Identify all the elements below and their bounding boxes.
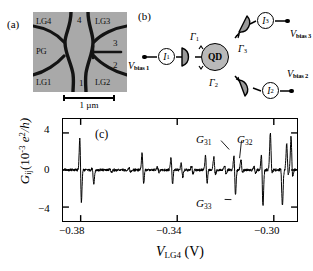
y-axis-unit-exp2: 2 [17, 132, 27, 136]
annotation-g32-symbol: G [237, 133, 245, 145]
terminal-2 [289, 89, 294, 94]
x-axis-label: VLG4 (V) [62, 244, 298, 260]
gamma-1-index: 1 [196, 35, 199, 42]
sem-region-3: 3 [113, 38, 118, 48]
x-axis-symbol: V [156, 244, 165, 259]
vbias-2-sub: bias 2 [293, 72, 308, 79]
y-axis-sub: ij [23, 170, 33, 175]
y-axis-unit-exp: -3 [17, 146, 27, 153]
x-tick-label-3: −0.30 [254, 224, 279, 236]
sem-label-lg4: LG4 [36, 16, 51, 26]
sem-label-pg: PG [36, 46, 46, 56]
vbias-1-label: Vbias 1 [128, 60, 149, 71]
annotation-g31-sub: 31 [204, 138, 212, 147]
gamma-2-label: Γ2 [209, 77, 218, 88]
scale-bar-label: 1 µm [63, 100, 115, 110]
y-axis-symbol: G [17, 175, 32, 184]
quantum-dot: QD [201, 43, 229, 71]
annotation-g32: G32 [237, 133, 252, 147]
sem-region-1: 1 [79, 78, 84, 88]
vbias-1-sub: bias 1 [134, 64, 149, 71]
gamma-1-label: Γ1 [190, 31, 199, 42]
annotation-g33-symbol: G [196, 197, 204, 209]
y-axis-label: Gij(10-3 e2/h) [17, 96, 33, 206]
terminal-1 [142, 55, 147, 60]
terminal-3 [285, 19, 290, 24]
sem-label-lg3: LG3 [95, 16, 110, 26]
sem-region-2: 2 [113, 60, 118, 70]
ammeter-1: I1 [158, 48, 175, 65]
ammeter-3: I3 [257, 12, 274, 29]
panel-a-label: (a) [7, 18, 19, 30]
x-tick-label-2: −0.34 [156, 224, 181, 236]
x-tick-label-1: −0.38 [59, 224, 84, 236]
y-axis-unit-post: e [17, 137, 32, 146]
ammeter-2-index: 2 [270, 87, 273, 94]
ammeter-2: I2 [262, 82, 279, 99]
gamma-3-label: Γ3 [238, 43, 247, 54]
gamma-3-index: 3 [244, 47, 247, 54]
y-tick-label-0: 0 [44, 163, 50, 175]
annotation-g31: G31 [196, 133, 211, 147]
leader-line-1 [221, 141, 229, 150]
figure-root: (a) [0, 0, 313, 271]
vbias-3-sub: bias 3 [296, 32, 311, 39]
panel-c-label: (c) [95, 127, 108, 142]
annotation-g33: G33 [196, 197, 211, 211]
ammeter-1-index: 1 [166, 53, 169, 60]
x-axis-unit: (V) [185, 244, 204, 259]
gamma-2-index: 2 [215, 81, 218, 88]
annotation-g33-sub: 33 [204, 202, 212, 211]
ammeter-3-index: 3 [265, 17, 268, 24]
y-axis-unit-tail: /h) [17, 118, 32, 132]
annotation-g32-sub: 32 [245, 138, 253, 147]
y-tick-label-neg4: −4 [38, 202, 50, 214]
x-axis-sub: LG4 [165, 250, 182, 260]
vbias-3-label: Vbias 3 [290, 28, 311, 39]
sem-label-lg2: LG2 [95, 77, 110, 87]
y-axis-unit-pre: (10 [17, 153, 32, 170]
sem-region-4: 4 [77, 15, 82, 25]
panel-c-plot: Gij(10-3 e2/h) 4 0 −4 [0, 113, 313, 271]
sem-label-lg1: LG1 [36, 77, 51, 87]
trace-line [63, 133, 297, 205]
panel-b-circuit: (b) [135, 0, 313, 115]
vbias-2-label: Vbias 2 [287, 68, 308, 79]
annotation-g31-symbol: G [196, 133, 204, 145]
y-tick-label-4: 4 [44, 123, 50, 135]
sem-micrograph: LG4 LG3 PG LG1 LG2 1 2 3 4 [33, 12, 127, 92]
